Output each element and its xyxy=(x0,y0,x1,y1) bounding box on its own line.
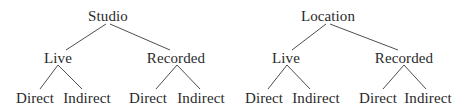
edge-live-indirect xyxy=(287,65,310,89)
node-studio-recorded-indirect: Indirect xyxy=(177,90,224,106)
edge-recorded-indirect xyxy=(177,65,200,89)
node-root-studio: Studio xyxy=(88,8,128,24)
node-studio-live: Live xyxy=(44,50,72,66)
edge-studio-recorded xyxy=(110,24,170,50)
node-location-recorded-indirect: Indirect xyxy=(404,90,451,106)
node-location-live-indirect: Indirect xyxy=(292,90,339,106)
node-location-recorded-direct: Direct xyxy=(359,90,397,106)
edge-live-indirect xyxy=(58,65,82,89)
edge-live-direct xyxy=(268,65,287,89)
tree-diagram: Studio Live Recorded Direct Indirect Dir… xyxy=(0,0,468,112)
node-location-live-direct: Direct xyxy=(245,90,283,106)
node-studio-live-direct: Direct xyxy=(16,90,54,106)
edge-location-live xyxy=(292,24,326,50)
node-location-recorded: Recorded xyxy=(375,50,433,66)
node-studio-recorded: Recorded xyxy=(147,50,205,66)
edge-live-direct xyxy=(40,65,58,89)
node-location-live: Live xyxy=(272,50,300,66)
edge-recorded-indirect xyxy=(404,65,426,89)
node-studio-recorded-direct: Direct xyxy=(129,90,167,106)
node-root-location: Location xyxy=(301,8,355,24)
edge-recorded-direct xyxy=(383,65,404,89)
edge-studio-live xyxy=(66,24,106,50)
edge-location-recorded xyxy=(330,24,398,50)
edge-recorded-direct xyxy=(156,65,177,89)
node-studio-live-indirect: Indirect xyxy=(63,90,110,106)
